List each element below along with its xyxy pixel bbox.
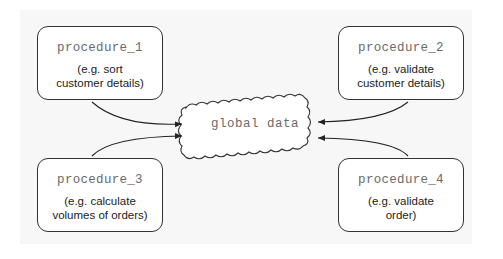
arrow-procedure-3 [92, 136, 182, 156]
procedure-1-name: procedure_1 [38, 41, 162, 55]
procedure-3-box: procedure_3 (e.g. calculate volumes of o… [37, 158, 163, 232]
arrow-procedure-1 [92, 102, 182, 124]
procedure-1-box: procedure_1 (e.g. sort customer details) [37, 26, 163, 100]
global-data-label: global data [190, 117, 320, 131]
procedure-2-description: (e.g. validate customer details) [339, 62, 463, 90]
procedure-3-name: procedure_3 [38, 173, 162, 187]
arrow-procedure-2 [318, 102, 408, 122]
procedure-3-description: (e.g. calculate volumes of orders) [38, 194, 162, 222]
arrow-procedure-4 [318, 138, 408, 156]
procedure-2-box: procedure_2 (e.g. validate customer deta… [338, 26, 464, 100]
procedure-2-name: procedure_2 [339, 41, 463, 55]
procedure-4-name: procedure_4 [339, 173, 463, 187]
procedure-4-box: procedure_4 (e.g. validate order) [338, 158, 464, 232]
procedure-1-description: (e.g. sort customer details) [38, 62, 162, 90]
procedure-4-description: (e.g. validate order) [339, 194, 463, 222]
